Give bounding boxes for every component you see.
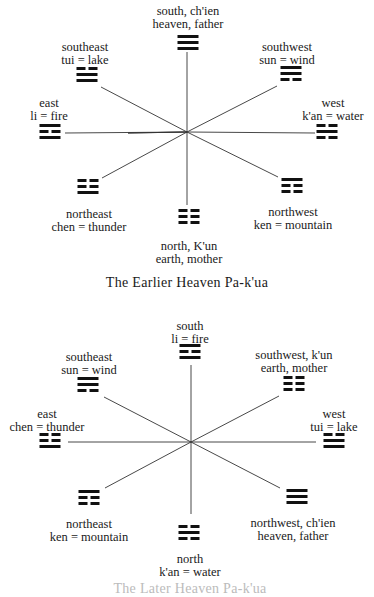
label-line2: k'an = water [302, 110, 363, 123]
trigram-chen-icon [78, 179, 99, 194]
yang-line [40, 124, 61, 127]
label-earlier-south: south, ch'ien heaven, father [153, 5, 224, 31]
label-line2: chen = thunder [51, 221, 126, 234]
yin-line [78, 389, 99, 392]
label-later-southwest: southwest, k'un earth, mother [255, 349, 332, 375]
yang-line [287, 501, 308, 504]
yang-line [40, 445, 61, 448]
yin-line [179, 221, 200, 224]
yin-line [77, 67, 98, 70]
yin-line [284, 388, 305, 391]
yin-line [179, 215, 200, 218]
trigram-tui-icon [324, 433, 345, 448]
yang-line [281, 66, 302, 69]
yin-line [79, 496, 100, 499]
label-line2: ken = mountain [254, 219, 333, 232]
yin-line [282, 190, 303, 193]
yin-line [324, 433, 345, 436]
caption-later-heaven: The Later Heaven Pa-k'ua [113, 581, 266, 597]
line-northwest [187, 132, 278, 177]
label-later-northeast: northeast ken = mountain [50, 518, 129, 544]
label-earlier-southeast: southeast tui = lake [61, 41, 108, 67]
line-northeast [102, 132, 187, 178]
yin-line [317, 124, 338, 127]
trigram-sun-icon [281, 66, 302, 81]
trigram-chen-icon [40, 433, 61, 448]
yang-line [281, 72, 302, 75]
label-earlier-northeast: northeast chen = thunder [51, 208, 126, 234]
yin-line [180, 350, 201, 353]
trigram-ch-ien-icon [178, 35, 199, 50]
yang-line [178, 41, 199, 44]
trigram-li-icon [180, 344, 201, 359]
trigram-sun-icon [78, 377, 99, 392]
label-line2: k'an = water [159, 566, 220, 579]
label-later-west: west tui = lake [310, 408, 357, 434]
line-northwest-2 [191, 442, 280, 488]
yang-line [180, 344, 201, 347]
yin-line [40, 439, 61, 442]
label-earlier-southwest: southwest sun = wind [259, 41, 315, 67]
trigram-li-icon [40, 124, 61, 139]
label-earlier-north: north, K'un earth, mother [156, 240, 223, 266]
yin-line [282, 184, 303, 187]
yang-line [324, 439, 345, 442]
line-southwest [187, 86, 277, 132]
yin-line [284, 376, 305, 379]
yin-line [281, 78, 302, 81]
label-line2: ken = mountain [50, 531, 129, 544]
yang-line [324, 445, 345, 448]
label-earlier-west: west k'an = water [302, 97, 363, 123]
caption-earlier-heaven: The Earlier Heaven Pa-k'ua [106, 275, 268, 291]
trigram-ken-icon [79, 490, 100, 505]
yin-line [179, 537, 200, 540]
line-northeast-2 [105, 442, 191, 488]
yang-line [282, 178, 303, 181]
line-southwest-2 [191, 396, 279, 442]
line-southeast-2 [104, 397, 191, 442]
yin-line [78, 185, 99, 188]
label-earlier-east: east li = fire [30, 97, 68, 123]
label-line2: tui = lake [61, 54, 108, 67]
yang-line [40, 136, 61, 139]
yin-line [78, 179, 99, 182]
line-west [187, 132, 315, 133]
trigram-tui-icon [77, 67, 98, 82]
yang-line [77, 73, 98, 76]
label-later-south: south li = fire [171, 320, 209, 346]
label-line2: heaven, father [153, 18, 224, 31]
yin-line [40, 433, 61, 436]
label-earlier-northwest: northwest ken = mountain [254, 206, 333, 232]
yin-line [40, 130, 61, 133]
line-southeast [101, 87, 187, 132]
trigram-ch-ien-icon [287, 489, 308, 504]
trigram-ken-icon [282, 178, 303, 193]
yin-line [284, 382, 305, 385]
trigram-k-un-icon [179, 209, 200, 224]
label-line2: li = fire [30, 110, 68, 123]
yang-line [287, 489, 308, 492]
label-line2: sun = wind [61, 364, 117, 377]
yang-line [178, 35, 199, 38]
label-later-southeast: southeast sun = wind [61, 351, 117, 377]
trigram-k-an-icon [179, 525, 200, 540]
trigram-k-un-icon [284, 376, 305, 391]
yang-line [317, 130, 338, 133]
label-later-northwest: northwest, ch'ien heaven, father [251, 517, 336, 543]
yin-line [79, 502, 100, 505]
label-line2: earth, mother [255, 362, 332, 375]
yin-line [317, 136, 338, 139]
trigram-k-an-icon [317, 124, 338, 139]
yang-line [180, 356, 201, 359]
yang-line [77, 79, 98, 82]
yang-line [79, 490, 100, 493]
yang-line [78, 191, 99, 194]
yang-line [78, 377, 99, 380]
label-line2: heaven, father [251, 530, 336, 543]
label-line2: earth, mother [156, 253, 223, 266]
label-later-east: east chen = thunder [9, 408, 84, 434]
yin-line [179, 209, 200, 212]
yang-line [287, 495, 308, 498]
yang-line [179, 531, 200, 534]
